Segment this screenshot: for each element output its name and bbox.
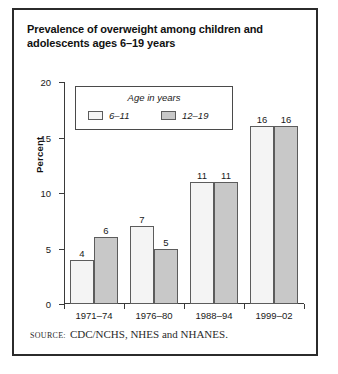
y-axis-line <box>64 82 65 304</box>
legend-label: 12–19 <box>182 110 208 121</box>
x-tick <box>304 304 305 309</box>
bar-value-label: 16 <box>281 114 292 125</box>
legend-title: Age in years <box>76 92 232 103</box>
legend-entry[interactable]: 12–19 <box>161 110 208 121</box>
bar-group: 16161999–02 <box>250 82 298 304</box>
chart-legend: Age in years 6–1112–19 <box>75 86 233 130</box>
legend-swatch-icon <box>88 111 103 120</box>
y-tick: 5 <box>59 249 64 250</box>
figure-frame: Prevalence of overweight among children … <box>12 8 318 356</box>
legend-swatch-icon <box>161 111 176 120</box>
y-tick: 20 <box>59 82 64 83</box>
source-label: SOURCE: <box>30 331 66 340</box>
x-axis-category-label: 1976–80 <box>136 310 173 321</box>
x-tick <box>124 304 125 309</box>
x-axis-category-label: 1988–94 <box>196 310 233 321</box>
bar-value-label: 16 <box>257 114 268 125</box>
y-tick-label: 10 <box>40 188 51 199</box>
x-axis-category-label: 1999–02 <box>256 310 293 321</box>
chart-title: Prevalence of overweight among children … <box>27 22 297 50</box>
bar-value-label: 11 <box>197 170 207 181</box>
bar[interactable]: 6 <box>94 237 118 304</box>
y-tick: 15 <box>59 138 64 139</box>
bar[interactable]: 11 <box>190 182 214 304</box>
y-tick: 10 <box>59 193 64 194</box>
legend-label: 6–11 <box>109 110 129 121</box>
bar-value-label: 6 <box>103 225 108 236</box>
x-tick <box>64 304 65 309</box>
bar[interactable]: 11 <box>214 182 238 304</box>
bar-value-label: 4 <box>79 248 84 259</box>
bar-value-label: 7 <box>139 214 144 225</box>
bar[interactable]: 16 <box>274 126 298 304</box>
bar[interactable]: 16 <box>250 126 274 304</box>
legend-entry[interactable]: 6–11 <box>88 110 129 121</box>
x-tick <box>184 304 185 309</box>
bar[interactable]: 4 <box>70 260 94 304</box>
bar-value-label: 5 <box>163 237 168 248</box>
y-tick-label: 5 <box>46 243 51 254</box>
x-tick <box>244 304 245 309</box>
bar[interactable]: 5 <box>154 249 178 305</box>
bar[interactable]: 7 <box>130 226 154 304</box>
bar-value-label: 11 <box>221 170 231 181</box>
y-tick-label: 0 <box>46 299 51 310</box>
x-axis-category-label: 1971–74 <box>76 310 113 321</box>
source-text: CDC/NCHS, NHES and NHANES. <box>70 328 228 340</box>
y-tick-label: 20 <box>40 77 51 88</box>
y-tick-label: 15 <box>40 132 51 143</box>
source-note: SOURCE:CDC/NCHS, NHES and NHANES. <box>30 328 228 340</box>
